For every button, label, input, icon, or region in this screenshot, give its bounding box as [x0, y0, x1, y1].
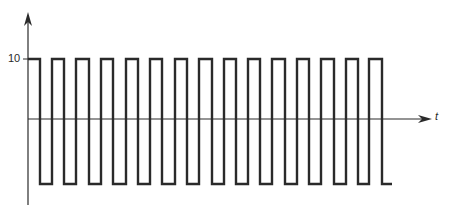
y-tick-label: 10	[8, 52, 20, 64]
square-wave-diagram	[0, 0, 449, 216]
square-waveform	[28, 59, 392, 184]
x-axis-label: t	[435, 110, 438, 122]
